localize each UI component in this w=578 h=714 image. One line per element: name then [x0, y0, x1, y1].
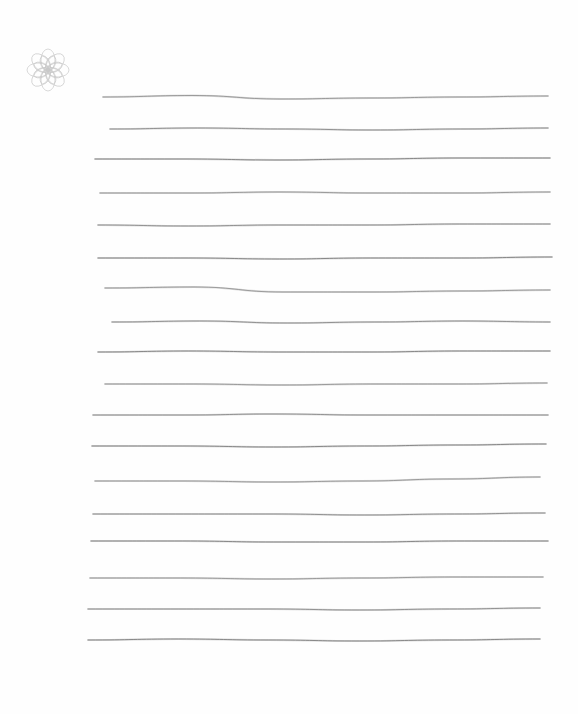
lined-paper-page: Blank hand-ruled writing page — [0, 0, 578, 714]
ruled-lines — [0, 0, 578, 714]
